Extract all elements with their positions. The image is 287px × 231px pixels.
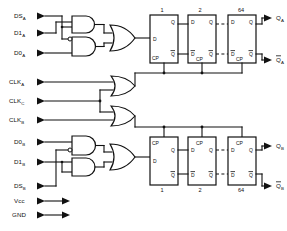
stage-number-bottom-2: 2 <box>198 187 201 193</box>
pin-bot1-q: Q <box>171 147 175 153</box>
pin-top2-dbar: D <box>191 51 195 57</box>
output-arrow-qa <box>264 15 272 22</box>
schematic-svg: DSA D1A D0A CLKA CLKC CLKB D0B D1B DSB V… <box>0 0 287 231</box>
pin-bot1-d: D <box>153 158 157 164</box>
pin-bot64-qbar: Q <box>249 172 253 178</box>
junction-top-cp2 <box>201 72 204 75</box>
gnd-arrow-end <box>62 212 70 219</box>
pin-bot2-q: Q <box>209 147 213 153</box>
label-clkc: CLKC <box>9 97 25 105</box>
pin-bot2-d: D <box>191 147 195 153</box>
input-arrow-d1a <box>37 30 45 37</box>
pin-bot1-cp: CP <box>152 140 160 146</box>
and-gate-bottom-1 <box>72 136 96 155</box>
label-d0b: D0B <box>14 138 25 146</box>
pin-bot2-cp: CP <box>196 140 204 146</box>
output-arrow-qb <box>264 143 272 150</box>
pin-bot64-q: Q <box>249 147 253 153</box>
input-arrow-clkb <box>37 117 45 124</box>
pin-bot2-dbar: D <box>191 172 195 178</box>
top-stage-numbers: 1 2 64 <box>160 7 244 13</box>
label-clkb: CLKB <box>9 116 24 124</box>
top-input-logic <box>45 16 150 56</box>
pin-top1-q: Q <box>171 19 175 25</box>
pin-bot2-qbar: Q <box>209 172 213 178</box>
stage-number-top-64: 64 <box>238 7 244 13</box>
junction-bot-cp1 <box>163 126 166 129</box>
pin-top64-dbar: D <box>231 51 235 57</box>
junction-d1b <box>61 161 64 164</box>
output-labels: QA QA QB QB <box>276 14 284 190</box>
inverter-bubble-bottom-and1 <box>68 148 72 152</box>
label-qa-bar: QA <box>276 56 284 64</box>
label-vcc: Vcc <box>14 197 25 204</box>
or-gate-clock-a <box>111 76 135 96</box>
label-dsa: DSA <box>14 12 26 20</box>
bottom-input-logic <box>45 136 150 186</box>
bottom-ff-chain <box>150 137 272 190</box>
input-labels: DSA D1A D0A CLKA CLKC CLKB D0B D1B DSB V… <box>9 12 26 218</box>
pin-top64-q: Q <box>249 19 253 25</box>
stage-number-bottom-64: 64 <box>238 187 244 193</box>
pin-top64-d: D <box>231 19 235 25</box>
pin-bot64-cp: CP <box>236 140 244 146</box>
label-d0a: D0A <box>14 49 25 57</box>
junction-dsa <box>61 26 64 29</box>
pin-top1-d: D <box>153 36 157 42</box>
label-qb-bar: QB <box>276 182 284 190</box>
input-arrow-dsb <box>37 183 45 190</box>
pin-bot64-dbar: D <box>231 172 235 178</box>
label-qa: QA <box>276 14 284 22</box>
and-gate-top-1 <box>72 16 95 33</box>
label-d1a: D1A <box>14 29 25 37</box>
junction-top-cp1 <box>163 72 166 75</box>
bottom-stage-numbers: 1 2 64 <box>160 187 244 193</box>
label-qb: QB <box>276 142 284 150</box>
vcc-arrow-end <box>62 198 70 205</box>
or-gate-bottom <box>110 144 135 170</box>
input-arrow-vcc <box>37 198 45 205</box>
input-arrow-dsa <box>37 13 45 20</box>
pin-bot64-d: D <box>231 147 235 153</box>
clock-or-block <box>45 73 242 137</box>
label-clka: CLKA <box>9 78 24 86</box>
pin-top2-cp: CP <box>196 56 204 62</box>
or-gate-top <box>110 25 135 51</box>
input-terminals <box>37 13 45 219</box>
input-arrow-d0b <box>37 139 45 146</box>
stage-number-bottom-1: 1 <box>160 187 163 193</box>
input-arrow-clkc <box>37 98 45 105</box>
pin-top2-qbar: Q <box>209 51 213 57</box>
logic-diagram-canvas: DSA D1A D0A CLKA CLKC CLKB D0B D1B DSB V… <box>0 0 287 231</box>
input-arrow-gnd <box>37 212 45 219</box>
pin-top64-cp: CP <box>236 56 244 62</box>
pin-top2-d: D <box>191 19 195 25</box>
label-d1b: D1B <box>14 158 25 166</box>
and-gate-top-2 <box>72 37 96 56</box>
input-arrow-d1b <box>37 159 45 166</box>
pin-top64-qbar: Q <box>249 51 253 57</box>
pin-top1-cp: CP <box>152 55 160 61</box>
stage-number-top-1: 1 <box>160 7 163 13</box>
inverter-bubble-top-and2 <box>68 37 72 41</box>
input-arrow-clka <box>37 79 45 86</box>
and-gate-bottom-2 <box>72 158 95 176</box>
junction-bot-cp2 <box>201 126 204 129</box>
label-gnd: GND <box>12 211 26 218</box>
power-stubs <box>45 198 70 219</box>
stage-number-top-2: 2 <box>198 7 201 13</box>
input-arrow-d0a <box>37 50 45 57</box>
or-gate-clock-b <box>111 106 135 126</box>
junction-clkc <box>99 100 102 103</box>
pin-bot1-qbar: Q <box>171 172 175 178</box>
output-arrow-qa-bar <box>264 57 272 64</box>
pin-top1-qbar: Q <box>171 51 175 57</box>
output-arrow-qb-bar <box>264 183 272 190</box>
pin-top2-q: Q <box>209 19 213 25</box>
label-dsb: DSB <box>14 182 26 190</box>
